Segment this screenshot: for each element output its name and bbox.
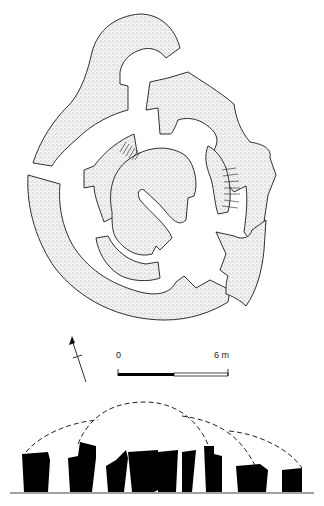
stone-1	[22, 452, 50, 492]
stone-8	[236, 464, 268, 492]
stone-5	[158, 450, 178, 492]
arch-center-large	[78, 402, 210, 450]
arch-right-2	[229, 431, 302, 468]
wall-central-core	[111, 148, 196, 255]
stone-4	[128, 450, 158, 492]
stone-9	[282, 468, 302, 492]
north-arrow-icon	[60, 330, 100, 390]
scale-start-label: 0	[116, 350, 121, 360]
scale-bar-graphic	[110, 348, 280, 388]
scale-end-label: 6 m	[214, 350, 229, 360]
site-plan	[0, 0, 324, 330]
stone-6	[182, 450, 196, 492]
stone-7	[204, 446, 222, 492]
stone-2	[68, 442, 96, 492]
stone-3	[106, 450, 128, 492]
stone-elevation	[0, 390, 324, 506]
scale-bar: 0 6 m	[110, 348, 280, 388]
